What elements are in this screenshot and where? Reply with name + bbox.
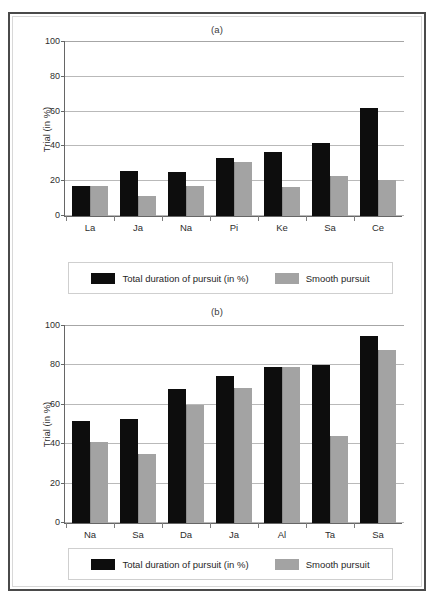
legend-item-total-duration: Total duration of pursuit (in %) (91, 559, 248, 570)
chart-b-ytick-label-20: 20 (50, 478, 60, 488)
chart-b-bar-Ta-5-smooth-pursuit (330, 436, 348, 523)
legend-swatch-smooth-pursuit-icon (275, 559, 299, 570)
chart-a-xtick-3 (210, 216, 211, 221)
chart-b-ytick-label-80: 80 (50, 359, 60, 369)
legend-swatch-total-duration-icon (91, 273, 115, 284)
chart-a-legend: Total duration of pursuit (in %) Smooth … (68, 262, 393, 294)
legend-swatch-smooth-pursuit-icon (275, 273, 299, 284)
chart-b-bar-Sa-6-total-duration (360, 336, 378, 523)
legend-label-smooth-pursuit: Smooth pursuit (306, 273, 370, 284)
legend-label-total-duration: Total duration of pursuit (in %) (122, 559, 248, 570)
chart-b-group-Ja-3: Ja (210, 326, 258, 523)
chart-b-xlabel-Ta-5: Ta (306, 529, 354, 540)
chart-b-group-Al-4: Al (258, 326, 306, 523)
chart-a-bar-Ke-4-smooth-pursuit (282, 187, 300, 216)
chart-a-bar-Ke-4-total-duration (264, 152, 282, 216)
chart-b-bar-Da-2-smooth-pursuit (186, 405, 204, 523)
chart-b-bar-Na-0-total-duration (72, 421, 90, 523)
chart-b-plot-area: 020406080100 NaSaDaJaAlTaSa (64, 326, 402, 524)
chart-a-ytick-label-0: 0 (55, 210, 60, 220)
chart-a-bar-Ce-6-total-duration (360, 108, 378, 216)
chart-a-ytick-mark-60 (61, 111, 65, 112)
chart-b-xtick-5 (306, 523, 307, 528)
legend-swatch-total-duration-icon (91, 559, 115, 570)
chart-a-xlabel-Ce-6: Ce (354, 222, 402, 233)
chart-b-ytick-mark-40 (61, 443, 65, 444)
chart-b-title: (b) (10, 306, 424, 317)
chart-a-xlabel-La-0: La (66, 222, 114, 233)
chart-a-group-Sa-5: Sa (306, 42, 354, 216)
chart-a-xtick-4 (258, 216, 259, 221)
chart-b-group-Sa-6: Sa (354, 326, 402, 523)
chart-b-bar-Ta-5-total-duration (312, 365, 330, 523)
chart-b-xtick-6 (354, 523, 355, 528)
chart-b-xlabel-Al-4: Al (258, 529, 306, 540)
chart-b-ytick-label-60: 60 (50, 399, 60, 409)
chart-b-ytick-mark-20 (61, 483, 65, 484)
chart-a-title: (a) (10, 24, 424, 35)
figure-page: (a) Trial (in %) 020406080100 LaJaNaPiKe… (0, 0, 437, 604)
chart-a-bar-Ce-6-smooth-pursuit (378, 180, 396, 216)
chart-b-bar-groups: NaSaDaJaAlTaSa (66, 326, 402, 523)
chart-a-bar-Na-2-smooth-pursuit (186, 186, 204, 216)
chart-b-xlabel-Sa-6: Sa (354, 529, 402, 540)
chart-panel-b: (b) Trial (in %) 020406080100 NaSaDaJaAl… (10, 298, 424, 589)
chart-b-bar-Da-2-total-duration (168, 389, 186, 523)
chart-b-bar-Ja-3-total-duration (216, 376, 234, 523)
chart-a-group-Pi-3: Pi (210, 42, 258, 216)
chart-a-ytick-mark-100 (61, 41, 65, 42)
chart-a-ytick-mark-20 (61, 180, 65, 181)
chart-a-bar-Sa-5-total-duration (312, 143, 330, 216)
chart-b-bar-Ja-3-smooth-pursuit (234, 388, 252, 523)
chart-a-bar-La-0-total-duration (72, 186, 90, 216)
chart-b-xtick-0 (66, 523, 67, 528)
chart-b-xlabel-Ja-3: Ja (210, 529, 258, 540)
chart-a-bar-Na-2-total-duration (168, 172, 186, 216)
chart-b-bar-Sa-1-smooth-pursuit (138, 454, 156, 523)
chart-b-ytick-label-40: 40 (50, 438, 60, 448)
chart-b-ytick-mark-80 (61, 364, 65, 365)
chart-b-bar-Al-4-smooth-pursuit (282, 367, 300, 523)
chart-b-bar-Na-0-smooth-pursuit (90, 442, 108, 523)
chart-a-ytick-label-60: 60 (50, 106, 60, 116)
chart-b-bar-Sa-6-smooth-pursuit (378, 350, 396, 523)
chart-a-xtick-6 (354, 216, 355, 221)
chart-b-xlabel-Na-0: Na (66, 529, 114, 540)
chart-a-xtick-1 (114, 216, 115, 221)
chart-b-bar-Al-4-total-duration (264, 367, 282, 523)
chart-a-bar-Sa-5-smooth-pursuit (330, 176, 348, 216)
chart-a-xlabel-Na-2: Na (162, 222, 210, 233)
chart-a-xlabel-Sa-5: Sa (306, 222, 354, 233)
chart-a-bar-Pi-3-smooth-pursuit (234, 162, 252, 216)
chart-a-plot-area: 020406080100 LaJaNaPiKeSaCe (64, 42, 402, 217)
chart-b-xtick-1 (114, 523, 115, 528)
chart-b-ytick-mark-100 (61, 325, 65, 326)
chart-a-ytick-label-20: 20 (50, 175, 60, 185)
chart-a-group-Ce-6: Ce (354, 42, 402, 216)
chart-a-xtick-5 (306, 216, 307, 221)
chart-a-bar-Ja-1-total-duration (120, 171, 138, 216)
legend-label-smooth-pursuit: Smooth pursuit (306, 559, 370, 570)
chart-a-ytick-label-100: 100 (45, 36, 60, 46)
chart-a-ytick-mark-0 (61, 215, 65, 216)
chart-b-group-Na-0: Na (66, 326, 114, 523)
legend-item-smooth-pursuit: Smooth pursuit (275, 273, 370, 284)
legend-item-total-duration: Total duration of pursuit (in %) (91, 273, 248, 284)
chart-a-ytick-mark-40 (61, 145, 65, 146)
chart-b-ytick-mark-0 (61, 522, 65, 523)
chart-a-xtick-2 (162, 216, 163, 221)
chart-b-group-Ta-5: Ta (306, 326, 354, 523)
chart-b-bar-Sa-1-total-duration (120, 419, 138, 523)
legend-label-total-duration: Total duration of pursuit (in %) (122, 273, 248, 284)
figure-outer-frame: (a) Trial (in %) 020406080100 LaJaNaPiKe… (8, 12, 426, 591)
chart-b-xtick-4 (258, 523, 259, 528)
chart-a-xtick-0 (66, 216, 67, 221)
chart-panel-a: (a) Trial (in %) 020406080100 LaJaNaPiKe… (10, 14, 424, 298)
chart-b-group-Da-2: Da (162, 326, 210, 523)
chart-b-ytick-mark-60 (61, 404, 65, 405)
chart-a-ytick-label-80: 80 (50, 71, 60, 81)
chart-a-xlabel-Ja-1: Ja (114, 222, 162, 233)
chart-b-legend: Total duration of pursuit (in %) Smooth … (68, 548, 393, 580)
chart-a-xlabel-Pi-3: Pi (210, 222, 258, 233)
chart-a-group-Ke-4: Ke (258, 42, 306, 216)
